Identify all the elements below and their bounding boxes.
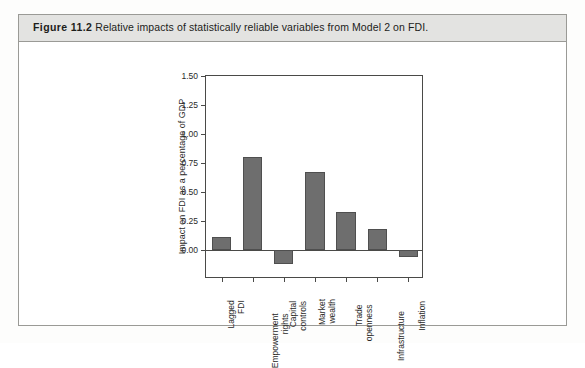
bar xyxy=(274,250,293,264)
figure-container: Figure 11.2 Relative impacts of statisti… xyxy=(18,14,567,326)
y-tick-label: 0.50 xyxy=(181,187,198,197)
y-tick-label: 1.25 xyxy=(181,100,198,110)
x-tick xyxy=(284,277,285,282)
x-tick-label-line: wealth xyxy=(328,299,338,325)
x-tick xyxy=(253,277,254,282)
x-tick-label-line: openness xyxy=(365,304,375,341)
x-tick-label-line: Inflation xyxy=(419,301,429,331)
bars-layer xyxy=(206,76,422,277)
x-tick xyxy=(222,277,223,282)
bar xyxy=(336,212,355,250)
plot-frame: 0.000.250.500.751.001.251.50 LaggedFDIEm… xyxy=(205,75,423,278)
plot-inner: 0.000.250.500.751.001.251.50 LaggedFDIEm… xyxy=(206,76,422,277)
x-tick xyxy=(315,277,316,282)
y-tick-label: 0.00 xyxy=(181,245,198,255)
x-tick xyxy=(346,277,347,282)
y-tick xyxy=(201,163,206,164)
x-tick-label: Capitalcontrols xyxy=(289,301,308,331)
bar xyxy=(305,172,324,250)
y-tick xyxy=(201,105,206,106)
x-tick-label: LaggedFDI xyxy=(226,300,245,328)
y-tick xyxy=(201,76,206,77)
y-tick-label: 1.50 xyxy=(181,71,198,81)
x-tick-label-line: controls xyxy=(299,301,309,331)
y-tick xyxy=(201,221,206,222)
x-tick-label: Inflation xyxy=(419,301,429,331)
x-tick-label-line: Capital xyxy=(289,301,299,331)
y-tick xyxy=(201,134,206,135)
x-tick-label-line: FDI xyxy=(236,300,246,328)
figure-number: Figure 11.2 xyxy=(33,21,92,33)
x-tick-label: Marketwealth xyxy=(318,299,337,325)
y-tick-label: 0.75 xyxy=(181,158,198,168)
x-tick-label-line: Infrastructure xyxy=(398,311,408,361)
x-tick-label: Infrastructure xyxy=(398,311,408,361)
y-tick-label: 0.25 xyxy=(181,216,198,226)
x-tick xyxy=(377,277,378,282)
x-tick-label: Empowermentrights xyxy=(271,313,290,368)
x-tick-label-line: Empowerment xyxy=(271,313,281,368)
x-tick-label-line: Lagged xyxy=(226,300,236,328)
bar xyxy=(212,237,231,250)
y-tick xyxy=(201,192,206,193)
bar xyxy=(243,157,262,250)
figure-caption: Figure 11.2 Relative impacts of statisti… xyxy=(33,21,428,33)
figure-caption-text: Relative impacts of statistically reliab… xyxy=(95,21,428,33)
x-tick-label: Tradeopenness xyxy=(355,304,374,341)
x-tick xyxy=(408,277,409,282)
y-tick xyxy=(201,250,206,251)
chart-area: Impact on FDI as a percentage of GDP 0.0… xyxy=(19,42,566,326)
bar xyxy=(368,229,387,250)
figure-caption-band: Figure 11.2 Relative impacts of statisti… xyxy=(19,15,566,42)
y-tick-label: 1.00 xyxy=(181,129,198,139)
bar xyxy=(399,250,418,257)
